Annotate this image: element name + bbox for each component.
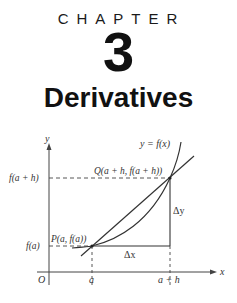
delta-y-label: Δy xyxy=(173,205,184,216)
point-p xyxy=(90,244,93,247)
delta-x-label: Δx xyxy=(124,249,135,260)
secant-line-figure: y = f(x) y x O Q(a + h, f(a + h)) P(a, f… xyxy=(0,0,237,303)
point-p-label: P(a, f(a)) xyxy=(50,234,86,245)
x-tick-right: a + h xyxy=(158,274,180,285)
function-curve xyxy=(72,142,181,248)
x-tick-left: a xyxy=(89,274,94,285)
point-q-label: Q(a + h, f(a + h)) xyxy=(94,166,162,177)
origin-label: O xyxy=(38,274,45,285)
x-axis-arrow-icon xyxy=(210,270,217,275)
y-axis-arrow-icon xyxy=(47,143,52,150)
x-axis-label: x xyxy=(219,266,225,277)
y-tick-lower: f(a) xyxy=(26,241,40,252)
y-axis-label: y xyxy=(44,133,50,144)
y-tick-upper: f(a + h) xyxy=(9,173,39,184)
curve-label: y = f(x) xyxy=(139,138,171,150)
point-q xyxy=(168,176,171,179)
